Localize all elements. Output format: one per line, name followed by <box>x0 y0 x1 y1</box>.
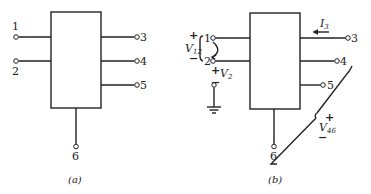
v46-minus-sign: − <box>318 131 327 144</box>
terminal-4-b <box>335 59 340 64</box>
terminal-3-label-b: 3 <box>351 32 358 45</box>
terminal-4-a <box>135 59 140 64</box>
caption-b: (b) <box>268 174 282 185</box>
terminal-3-label-a: 3 <box>140 31 147 44</box>
terminal-5-b <box>321 83 326 88</box>
terminal-3-b <box>346 36 351 41</box>
ground-terminal <box>212 83 216 87</box>
terminal-2-a <box>14 59 19 64</box>
v12-minus-sign: − <box>189 52 198 65</box>
ground-icon <box>207 107 221 113</box>
terminal-5-label-a: 5 <box>140 79 147 92</box>
terminal-3-a <box>135 35 140 40</box>
terminal-5-a <box>135 83 140 88</box>
v46-break <box>315 113 317 118</box>
terminal-2-label-b: 2 <box>204 55 211 68</box>
network-box-b <box>250 13 300 109</box>
terminal-6-b <box>272 144 277 149</box>
network-box-a <box>51 12 101 108</box>
terminal-1-label-b: 1 <box>204 32 211 45</box>
terminal-1-b <box>211 36 216 41</box>
panel-a: 1 2 3 4 5 6 (a) <box>12 12 147 185</box>
terminal-4-label-a: 4 <box>140 55 147 68</box>
v12-curved-arrow <box>213 42 218 56</box>
terminal-5-label-b: 5 <box>327 79 334 92</box>
six-terminal-network-diagram: 1 2 3 4 5 6 (a) 1 2 <box>0 0 371 194</box>
terminal-1-a <box>14 35 19 40</box>
v2-label: V2 <box>220 67 233 81</box>
terminal-6-a <box>74 144 79 149</box>
terminal-4-label-b: 4 <box>340 55 347 68</box>
v46-measurement-line <box>271 66 352 164</box>
panel-b: 1 2 + V12 − + V2 − 3 I3 <box>185 13 358 185</box>
caption-a: (a) <box>68 174 82 185</box>
terminal-6-label-a: 6 <box>72 150 79 163</box>
terminal-1-label-a: 1 <box>12 20 19 33</box>
terminal-2-label-a: 2 <box>12 65 19 78</box>
v12-plus-sign: + <box>189 29 198 42</box>
i3-label: I3 <box>319 17 329 31</box>
